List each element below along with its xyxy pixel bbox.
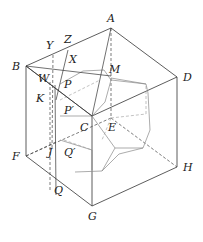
label-M: M: [108, 63, 121, 76]
label-F: F: [11, 150, 20, 163]
vertex-labels: A B D C E F H G M Y Z X W P K P′ J Q′ Q: [11, 12, 193, 223]
label-B: B: [11, 60, 20, 73]
label-W: W: [38, 72, 51, 85]
label-E: E: [107, 121, 116, 134]
label-Z: Z: [63, 33, 72, 46]
label-P: P: [63, 78, 72, 91]
label-Q-prime: Q′: [64, 146, 76, 159]
label-Q: Q: [54, 184, 63, 197]
cube-edges: [26, 28, 177, 206]
label-X: X: [68, 53, 78, 66]
label-Y: Y: [46, 39, 55, 52]
label-H: H: [182, 161, 193, 174]
label-P-prime: P′: [63, 104, 74, 117]
label-K: K: [35, 92, 45, 105]
label-D: D: [182, 71, 192, 84]
geometry-diagram: A B D C E F H G M Y Z X W P K P′ J Q′ Q: [0, 0, 203, 242]
label-C: C: [80, 121, 89, 134]
label-A: A: [106, 12, 115, 25]
label-J: J: [46, 146, 53, 159]
label-G: G: [88, 210, 97, 223]
